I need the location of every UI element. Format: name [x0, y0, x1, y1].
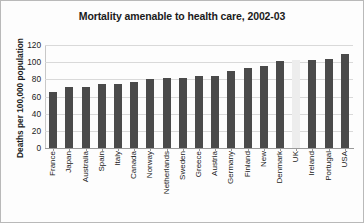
- bar-series: [45, 45, 353, 148]
- x-tick-label: Denmark: [276, 151, 284, 183]
- x-label-slot: Netherlands: [158, 151, 174, 213]
- bar-slot: [77, 45, 93, 148]
- x-label-slot: Norway: [142, 151, 158, 213]
- y-tick-label: 20: [1, 127, 41, 135]
- x-tick-label: Sweden: [179, 151, 187, 180]
- bar-slot: [223, 45, 239, 148]
- x-tick-label: USA: [341, 151, 349, 167]
- bar: [292, 60, 300, 148]
- x-tick-label: Ireland: [308, 151, 316, 175]
- bar: [211, 76, 219, 148]
- bar: [146, 79, 154, 148]
- y-tick-label: 60: [1, 93, 41, 101]
- bar-slot: [45, 45, 61, 148]
- x-label-slot: Spain: [94, 151, 110, 213]
- bar-slot: [142, 45, 158, 148]
- bar: [341, 54, 349, 148]
- x-label-slot: Sweden: [175, 151, 191, 213]
- chart-title: Mortality amenable to health care, 2002-…: [1, 10, 363, 22]
- x-tick-label: Finland: [244, 151, 252, 177]
- bar-slot: [288, 45, 304, 148]
- x-label-slot: Canada: [126, 151, 142, 213]
- y-tick-label: 100: [1, 58, 41, 66]
- bar-slot: [175, 45, 191, 148]
- x-label-slot: UK: [288, 151, 304, 213]
- x-tick-label: Norway: [146, 151, 154, 178]
- bar: [114, 84, 122, 148]
- x-label-slot: Denmark: [272, 151, 288, 213]
- bar: [130, 82, 138, 148]
- bar: [98, 84, 106, 148]
- x-label-slot: USA: [337, 151, 353, 213]
- bar-slot: [272, 45, 288, 148]
- x-tick-label: Netherlands: [163, 151, 171, 194]
- x-label-slot: Finland: [239, 151, 255, 213]
- y-tick-label: 0: [1, 144, 41, 152]
- bar-slot: [320, 45, 336, 148]
- bar-slot: [207, 45, 223, 148]
- x-label-slot: Ireland: [304, 151, 320, 213]
- x-tick-label: Austria: [211, 151, 219, 176]
- x-tick-label: Japan: [65, 151, 73, 173]
- bar-slot: [256, 45, 272, 148]
- x-tick-label: New: [260, 151, 268, 167]
- bar: [227, 71, 235, 148]
- x-tick-label: Germany: [227, 151, 235, 184]
- y-tick-label: 120: [1, 41, 41, 49]
- bar-slot: [126, 45, 142, 148]
- bar-slot: [304, 45, 320, 148]
- bar: [195, 76, 203, 148]
- bar: [260, 66, 268, 148]
- bar: [49, 92, 57, 148]
- bar-slot: [337, 45, 353, 148]
- x-tick-label: France: [49, 151, 57, 176]
- bar: [325, 59, 333, 148]
- y-axis-tick-labels: 020406080100120: [1, 45, 41, 148]
- x-tick-label: Portugal: [325, 151, 333, 181]
- x-tick-label: UK: [292, 151, 300, 162]
- y-tick-label: 40: [1, 110, 41, 118]
- bar-slot: [110, 45, 126, 148]
- bar: [308, 60, 316, 148]
- x-label-slot: Austria: [207, 151, 223, 213]
- bar-slot: [239, 45, 255, 148]
- x-label-slot: New: [256, 151, 272, 213]
- bar-slot: [61, 45, 77, 148]
- bar-slot: [94, 45, 110, 148]
- bar-slot: [191, 45, 207, 148]
- plot-area: [45, 45, 353, 148]
- bar: [163, 78, 171, 148]
- x-label-slot: Portugal: [320, 151, 336, 213]
- bar: [179, 78, 187, 148]
- chart-figure: Mortality amenable to health care, 2002-…: [0, 0, 364, 223]
- x-axis-tick-labels: FranceJapanAustraliaSpainItalyCanadaNorw…: [45, 151, 353, 213]
- x-label-slot: Greece: [191, 151, 207, 213]
- bar: [276, 61, 284, 148]
- x-tick-label: Australia: [82, 151, 90, 182]
- x-tick-label: Canada: [130, 151, 138, 179]
- x-tick-label: Greece: [195, 151, 203, 177]
- x-label-slot: Germany: [223, 151, 239, 213]
- x-label-slot: Italy: [110, 151, 126, 213]
- x-label-slot: France: [45, 151, 61, 213]
- y-tick-label: 80: [1, 75, 41, 83]
- x-tick-label: Italy: [114, 151, 122, 166]
- bar: [65, 87, 73, 148]
- bar: [244, 68, 252, 148]
- bar: [82, 87, 90, 148]
- x-label-slot: Australia: [77, 151, 93, 213]
- bar-slot: [158, 45, 174, 148]
- x-label-slot: Japan: [61, 151, 77, 213]
- x-tick-label: Spain: [98, 151, 106, 171]
